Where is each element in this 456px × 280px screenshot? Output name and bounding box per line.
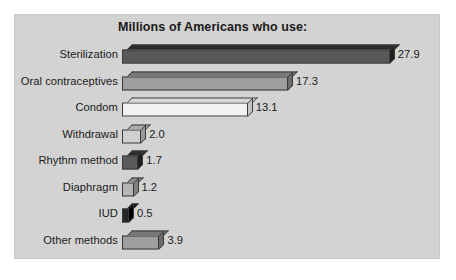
bar-value-label: 0.5: [137, 207, 153, 219]
bar-value-label: 1.2: [142, 181, 158, 193]
plot-area: Sterilization27.9Oral contraceptives17.3…: [14, 40, 440, 259]
bar-side-face: [159, 230, 164, 249]
bar-row: Oral contraceptives17.3: [14, 69, 440, 93]
bar-front-face: [122, 129, 141, 143]
bar-condom: [122, 98, 253, 117]
bar-category-label: Sterilization: [14, 48, 118, 60]
bar-top-face: [127, 98, 258, 103]
bar-category-label: Condom: [14, 101, 118, 113]
bar-oral-contraceptives: [122, 71, 293, 90]
bar-value-label: 17.3: [296, 75, 318, 87]
bar-row: Rhythm method1.7: [14, 148, 440, 172]
chart-title: Millions of Americans who use:: [118, 20, 307, 34]
bar-front-face: [122, 235, 159, 249]
bar-side-face: [141, 124, 146, 143]
bar-category-label: Rhythm method: [14, 154, 118, 166]
bar-front-face: [122, 182, 134, 196]
bar-value-label: 13.1: [256, 101, 278, 113]
bar-front-face: [122, 76, 288, 90]
bar-diaphragm: [122, 177, 139, 196]
bar-side-face: [138, 151, 143, 170]
bar-front-face: [122, 50, 390, 64]
bar-top-face: [127, 71, 298, 76]
bar-side-face: [288, 71, 293, 90]
chart-panel: Millions of Americans who use: Steriliza…: [14, 14, 440, 259]
bar-row: Other methods3.9: [14, 228, 440, 252]
bar-front-face: [122, 103, 248, 117]
bar-row: Withdrawal2.0: [14, 122, 440, 146]
bar-row: Condom13.1: [14, 95, 440, 119]
bar-category-label: Oral contraceptives: [14, 75, 118, 87]
bar-side-face: [390, 45, 395, 64]
bar-row: Sterilization27.9: [14, 42, 440, 66]
bar-category-label: Other methods: [14, 234, 118, 246]
bar-withdrawal: [122, 124, 146, 143]
bar-category-label: IUD: [14, 207, 118, 219]
bar-row: IUD0.5: [14, 201, 440, 225]
bar-front-face: [122, 209, 129, 223]
bar-side-face: [129, 204, 134, 223]
bar-value-label: 2.0: [149, 128, 165, 140]
bar-category-label: Diaphragm: [14, 181, 118, 193]
bar-front-face: [122, 156, 138, 170]
bar-sterilization: [122, 45, 395, 64]
bar-row: Diaphragm1.2: [14, 175, 440, 199]
bar-iud: [122, 204, 134, 223]
bar-other-methods: [122, 230, 164, 249]
bar-top-face: [127, 45, 400, 50]
bar-top-face: [127, 124, 151, 129]
bar-category-label: Withdrawal: [14, 128, 118, 140]
bar-rhythm-method: [122, 151, 143, 170]
bar-side-face: [248, 98, 253, 117]
bar-value-label: 1.7: [146, 154, 162, 166]
bar-value-label: 3.9: [167, 234, 183, 246]
bar-value-label: 27.9: [398, 48, 420, 60]
chart-figure: Millions of Americans who use: Steriliza…: [0, 0, 456, 280]
